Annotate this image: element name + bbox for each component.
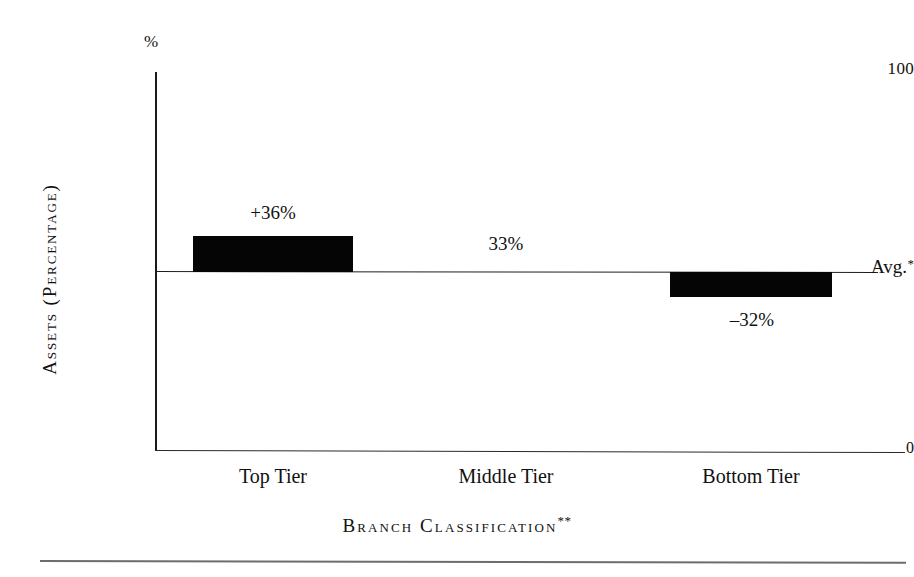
x-axis-title: Branch Classification** [0,513,914,537]
y-axis-tick-average-text: Avg. [871,256,907,277]
category-label-middle-tier: Middle Tier [426,466,586,486]
bottom-divider-rule [40,560,906,563]
category-label-bottom-tier: Bottom Tier [670,466,832,486]
y-axis-tick-zero: 0 [768,440,914,456]
y-axis-tick-100: 100 [768,60,914,77]
x-axis-footnote-marker: ** [558,513,572,528]
value-label-bottom-tier: –32% [692,310,812,329]
y-axis-line [155,72,157,451]
y-axis-title: Assets (Percentage) [39,99,61,459]
value-label-top-tier: +36% [213,203,333,222]
bar-bottom-tier [670,272,832,297]
average-footnote-marker: * [908,256,914,271]
chart-canvas: % 100 Avg.* 0 Assets (Percentage) +36% 3… [0,0,914,577]
category-label-top-tier: Top Tier [193,466,353,486]
y-axis-percent-symbol: % [144,33,158,50]
bar-top-tier [193,236,353,272]
x-axis-title-text: Branch Classification [342,515,557,536]
value-label-middle-tier: 33% [446,234,566,253]
